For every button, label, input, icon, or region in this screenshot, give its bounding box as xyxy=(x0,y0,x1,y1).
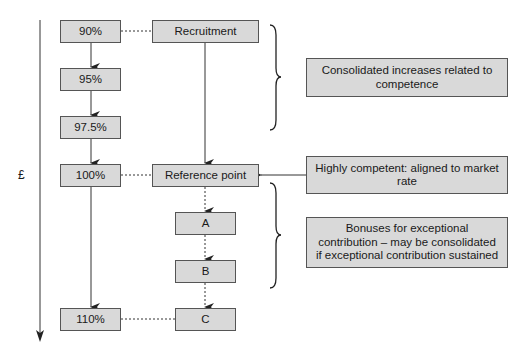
note-consolidated-increases: Consolidated increases related to compet… xyxy=(306,58,508,97)
box-recruitment: Recruitment xyxy=(152,20,259,43)
currency-axis-label: £ xyxy=(18,168,25,182)
box-110-percent: 110% xyxy=(60,308,121,331)
box-a: A xyxy=(175,212,236,235)
box-95-percent: 95% xyxy=(60,68,121,91)
box-90-percent: 90% xyxy=(60,20,121,43)
box-b: B xyxy=(175,260,236,283)
box-reference-point: Reference point xyxy=(152,164,259,187)
box-c: C xyxy=(175,308,236,331)
note-highly-competent: Highly competent: aligned to market rate xyxy=(306,156,508,194)
box-97-5-percent: 97.5% xyxy=(60,116,121,139)
note-bonuses: Bonuses for exceptional contribution – m… xyxy=(306,217,508,268)
box-100-percent: 100% xyxy=(60,164,121,187)
